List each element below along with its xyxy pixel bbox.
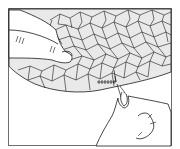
right-hand: [96, 92, 171, 146]
stitching-illustration: [0, 0, 180, 149]
illustration-frame: [0, 0, 180, 149]
